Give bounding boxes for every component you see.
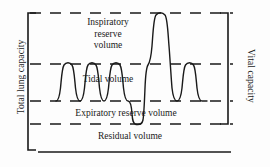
label-expiratory-reserve-volume: Expiratory reserve volume [52,108,200,118]
label-irv-line-1: Inspiratory [66,17,150,29]
bracket-total-lung-capacity [28,13,36,150]
label-inspiratory-reserve-volume: Inspiratory reserve volume [66,17,150,52]
label-total-lung-capacity: Total lung capacity [16,14,26,140]
label-irv-line-3: volume [66,40,150,52]
label-residual-volume: Residual volume [55,131,205,141]
label-irv-line-2: reserve [66,29,150,41]
bracket-vital-capacity [220,13,228,124]
label-tidal-volume: Tidal volume [60,74,156,84]
label-vital-capacity: Vital capacity [246,22,256,130]
lung-volumes-diagram: Total lung capacity Vital capacity Inspi… [0,0,270,167]
